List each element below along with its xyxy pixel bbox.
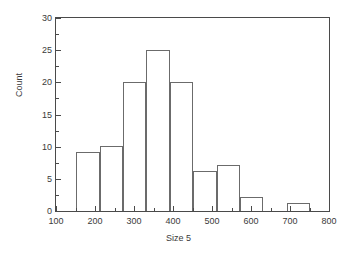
x-axis-tick-label: 200: [87, 217, 102, 226]
histogram-bar: [170, 82, 193, 211]
y-axis-tick-label: 30: [42, 14, 52, 23]
x-axis-tick: [134, 206, 135, 211]
x-axis-tick-label: 100: [48, 217, 63, 226]
x-axis-tick: [173, 206, 174, 211]
y-axis-tick-label: 25: [42, 46, 52, 55]
y-axis-title: Count: [14, 73, 24, 97]
x-axis-minor-tick: [271, 208, 272, 211]
histogram-figure: 051015202530100200300400500600700800 Cou…: [0, 0, 357, 257]
x-axis-tick-label: 400: [165, 217, 180, 226]
x-axis-minor-tick: [115, 208, 116, 211]
x-axis-tick: [95, 206, 96, 211]
y-axis-tick: [56, 50, 61, 51]
y-axis-tick: [56, 147, 61, 148]
y-axis-minor-tick: [56, 66, 59, 67]
x-axis-minor-tick: [310, 208, 311, 211]
y-axis-minor-tick: [56, 131, 59, 132]
y-axis-minor-tick: [56, 34, 59, 35]
y-axis-tick: [56, 211, 61, 212]
plot-area: 051015202530100200300400500600700800: [55, 17, 330, 212]
histogram-bar: [123, 82, 146, 211]
y-axis-tick: [56, 82, 61, 83]
y-axis-tick: [56, 179, 61, 180]
x-axis-tick-label: 700: [282, 217, 297, 226]
y-axis-minor-tick: [56, 195, 59, 196]
x-axis-minor-tick: [232, 208, 233, 211]
x-axis-tick: [251, 206, 252, 211]
x-axis-title: Size 5: [0, 233, 357, 243]
x-axis-tick: [212, 206, 213, 211]
histogram-bar: [217, 165, 240, 211]
y-axis-tick-label: 5: [47, 174, 52, 183]
y-axis-tick-label: 15: [42, 110, 52, 119]
x-axis-tick: [56, 206, 57, 211]
y-axis-minor-tick: [56, 98, 59, 99]
y-axis-tick: [56, 18, 61, 19]
x-axis-tick-label: 600: [243, 217, 258, 226]
y-axis-minor-tick: [56, 163, 59, 164]
y-axis-tick-label: 20: [42, 78, 52, 87]
x-axis-minor-tick: [193, 208, 194, 211]
y-axis-tick: [56, 115, 61, 116]
x-axis-minor-tick: [76, 208, 77, 211]
histogram-bar: [193, 171, 216, 211]
x-axis-tick: [329, 206, 330, 211]
histogram-bar: [76, 152, 99, 211]
histogram-bar: [100, 146, 123, 211]
x-axis-tick: [290, 206, 291, 211]
y-axis-tick-label: 10: [42, 142, 52, 151]
x-axis-tick-label: 300: [126, 217, 141, 226]
histogram-bar: [146, 50, 169, 211]
x-axis-minor-tick: [154, 208, 155, 211]
x-axis-tick-label: 500: [204, 217, 219, 226]
x-axis-tick-label: 800: [321, 217, 336, 226]
y-axis-tick-label: 0: [47, 207, 52, 216]
